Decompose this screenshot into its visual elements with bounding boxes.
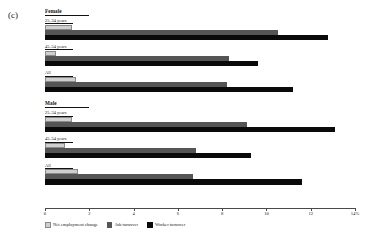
chart-legend: Net employment changeJob turnoverWorker … bbox=[45, 222, 185, 228]
axis-tick-label: 8 bbox=[221, 211, 223, 216]
axis-tick bbox=[89, 208, 90, 211]
bar-female-0-series-2 bbox=[45, 35, 328, 40]
bar-female-2-series-2 bbox=[45, 87, 293, 92]
legend-item: Worker turnover bbox=[147, 222, 185, 228]
category-label: 25–34 years bbox=[45, 110, 73, 116]
panel-letter-label: (c) bbox=[8, 10, 18, 20]
axis-tick bbox=[311, 208, 312, 211]
group-heading-male: Male bbox=[45, 100, 89, 108]
axis-tick-label: 0 bbox=[44, 211, 46, 216]
axis-tick bbox=[178, 208, 179, 211]
legend-swatch-icon bbox=[147, 222, 153, 228]
category-label: 25–34 years bbox=[45, 18, 73, 24]
bar-male-0-series-2 bbox=[45, 127, 335, 132]
legend-label: Worker turnover bbox=[155, 222, 185, 227]
axis-tick bbox=[45, 208, 46, 211]
figure-panel-c: (c) Female25–34 years45–54 yearsAllMale2… bbox=[0, 0, 374, 238]
axis-tick bbox=[134, 208, 135, 211]
axis-tick-label: 10 bbox=[264, 211, 269, 216]
category-label: All bbox=[45, 163, 73, 169]
legend-swatch-icon bbox=[107, 222, 113, 228]
category-label: 45–54 years bbox=[45, 136, 73, 142]
bar-male-1-series-2 bbox=[45, 153, 251, 158]
axis-tick bbox=[355, 208, 356, 211]
axis-tick-label: 14% bbox=[351, 211, 359, 216]
plot-area: Female25–34 years45–54 yearsAllMale25–34… bbox=[45, 8, 355, 208]
legend-label: Job turnover bbox=[115, 222, 138, 227]
axis-tick bbox=[266, 208, 267, 211]
x-axis: 02468101214% bbox=[45, 208, 355, 209]
axis-tick-label: 12 bbox=[308, 211, 313, 216]
legend-swatch-icon bbox=[45, 222, 51, 228]
axis-tick-label: 2 bbox=[88, 211, 90, 216]
axis-tick-label: 6 bbox=[177, 211, 179, 216]
legend-item: Net employment change bbox=[45, 222, 98, 228]
category-label: All bbox=[45, 70, 73, 76]
legend-label: Net employment change bbox=[53, 222, 98, 227]
bar-female-1-series-2 bbox=[45, 61, 258, 66]
category-label: 45–54 years bbox=[45, 44, 73, 50]
axis-tick bbox=[222, 208, 223, 211]
axis-tick-label: 4 bbox=[132, 211, 134, 216]
group-heading-female: Female bbox=[45, 8, 89, 16]
bar-male-2-series-2 bbox=[45, 179, 302, 184]
legend-item: Job turnover bbox=[107, 222, 138, 228]
